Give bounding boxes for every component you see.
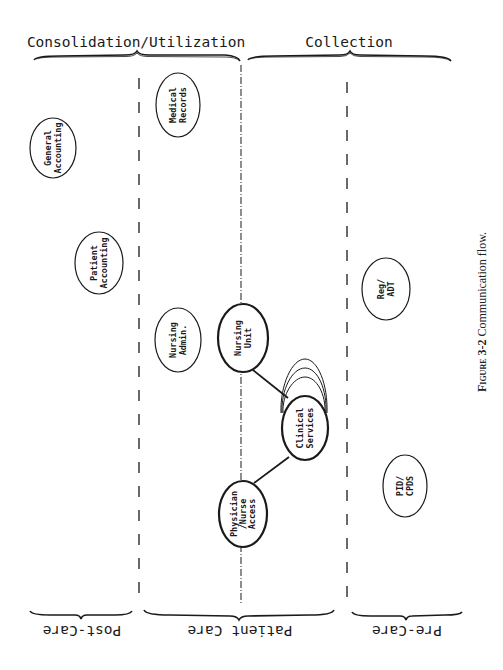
svg-text:CPDS: CPDS: [405, 476, 415, 496]
node-clinical-services: Clinical Services: [282, 396, 328, 460]
communication-flow-diagram: Consolidation/Utilization Collection Gen…: [0, 0, 503, 670]
svg-text:General: General: [43, 130, 53, 166]
caption-figure-label: Figure 3-2: [475, 339, 489, 392]
svg-text:Reg/: Reg/: [376, 279, 386, 299]
svg-text:Access: Access: [247, 499, 257, 530]
svg-text:Nursing: Nursing: [233, 320, 243, 356]
svg-text:Accounting: Accounting: [53, 122, 63, 173]
node-general-accounting: General Accounting: [30, 118, 76, 178]
svg-text:Accounting: Accounting: [99, 237, 109, 288]
svg-text:Medical: Medical: [168, 87, 178, 123]
connector-clinical-services-physician-access: [254, 457, 289, 483]
figure-caption: Figure 3-2 Communication flow.: [475, 232, 489, 392]
node-nursing-admin: Nursing Admin.: [155, 308, 201, 372]
svg-text:PID/: PID/: [395, 476, 405, 496]
node-physician-nurse-access: Physician /Nurse Access: [219, 481, 267, 547]
footer-patient-care: Patient Care: [188, 623, 293, 639]
node-nursing-unit: Nursing Unit: [218, 304, 268, 372]
footer-post-care: Post-Care: [43, 623, 122, 639]
svg-text:Records: Records: [178, 87, 188, 123]
svg-text:Patient: Patient: [89, 245, 99, 281]
svg-text:Nursing: Nursing: [168, 322, 178, 358]
svg-text:Admin.: Admin.: [178, 325, 188, 356]
caption-text: Communication flow.: [475, 232, 489, 340]
svg-text:Clinical: Clinical: [295, 408, 305, 449]
header-collection: Collection: [305, 34, 392, 50]
svg-text:Unit: Unit: [243, 328, 253, 348]
brace-patient-care: [144, 610, 334, 620]
header-consolidation-utilization: Consolidation/Utilization: [27, 34, 245, 50]
footer-pre-care: Pre-Care: [372, 623, 442, 639]
node-pid-cpds: PID/ CPDS: [383, 455, 427, 517]
node-medical-records: Medical Records: [156, 73, 200, 137]
brace-pre-care: [352, 612, 462, 620]
svg-text:Services: Services: [305, 408, 315, 449]
node-reg-adt: Reg/ ADT: [362, 258, 410, 320]
brace-post-care: [30, 611, 132, 619]
connector-nursing-unit-clinical-services: [253, 370, 288, 398]
svg-text:ADT: ADT: [386, 281, 396, 296]
brace-collection: [248, 51, 451, 61]
svg-text:Figure 3-2 Communication flow.: Figure 3-2 Communication flow.: [475, 232, 489, 392]
node-patient-accounting: Patient Accounting: [75, 232, 123, 294]
